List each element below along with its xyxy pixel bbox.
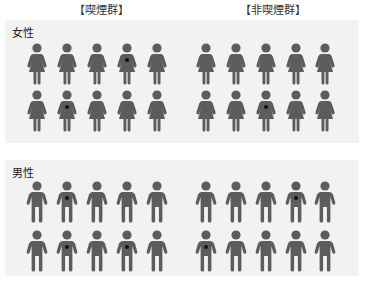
male-non-smoking-figure — [225, 181, 247, 223]
female-person-icon — [116, 90, 138, 132]
female-smoking-figure — [26, 90, 48, 132]
male-non-smoking-figure — [314, 181, 336, 223]
female-person-icon — [26, 43, 48, 85]
female-non-smoking-figure — [314, 90, 336, 132]
male-smoking-figure — [146, 181, 168, 223]
section-label-male: 男性 — [12, 164, 34, 180]
female-non-smoking-figure — [225, 90, 247, 132]
male-person-icon — [314, 181, 336, 223]
female-smoking-figure-marked — [56, 90, 78, 132]
male-person-icon — [195, 181, 217, 223]
female-person-icon — [26, 90, 48, 132]
male-person-icon — [116, 230, 138, 272]
male-person-icon — [146, 181, 168, 223]
male-smoking-figure-marked — [56, 230, 78, 272]
male-non-smoking-figure — [255, 230, 277, 272]
female-person-icon — [146, 43, 168, 85]
male-smoking-figure-marked — [116, 230, 138, 272]
male-non-smoking-figure — [255, 181, 277, 223]
male-person-icon — [56, 230, 78, 272]
female-non-smoking-figure — [285, 43, 307, 85]
female-smoking-figure — [86, 90, 108, 132]
female-non-smoking-figure — [225, 43, 247, 85]
header-smoking-group: 【喫煙群】 — [74, 1, 129, 17]
male-non-smoking-figure-marked — [285, 181, 307, 223]
section-female: 女性 — [5, 20, 359, 143]
male-person-icon — [314, 230, 336, 272]
male-person-icon — [86, 230, 108, 272]
male-smoking-figure — [26, 181, 48, 223]
female-person-icon — [255, 90, 277, 132]
female-person-icon — [285, 90, 307, 132]
male-person-icon — [116, 181, 138, 223]
male-smoking-figure — [116, 181, 138, 223]
female-smoking-figure — [56, 43, 78, 85]
female-smoking-figure — [26, 43, 48, 85]
female-person-icon — [56, 90, 78, 132]
female-person-icon — [285, 43, 307, 85]
male-person-icon — [146, 230, 168, 272]
male-person-icon — [26, 181, 48, 223]
female-non-smoking-figure — [195, 90, 217, 132]
female-person-icon — [195, 90, 217, 132]
female-non-smoking-figure-marked — [255, 90, 277, 132]
male-person-icon — [86, 181, 108, 223]
male-non-smoking-figure-marked — [195, 230, 217, 272]
female-smoking-figure — [86, 43, 108, 85]
female-non-smoking-figure — [255, 43, 277, 85]
male-person-icon — [285, 230, 307, 272]
female-person-icon — [195, 43, 217, 85]
male-non-smoking-figure — [195, 181, 217, 223]
male-person-icon — [195, 230, 217, 272]
section-label-female: 女性 — [12, 24, 34, 40]
section-male: 男性 — [5, 160, 359, 276]
female-person-icon — [225, 90, 247, 132]
female-person-icon — [86, 90, 108, 132]
female-person-icon — [314, 90, 336, 132]
male-person-icon — [26, 230, 48, 272]
female-person-icon — [56, 43, 78, 85]
male-non-smoking-figure — [225, 230, 247, 272]
male-smoking-figure — [86, 181, 108, 223]
female-person-icon — [225, 43, 247, 85]
female-person-icon — [314, 43, 336, 85]
female-non-smoking-figure — [314, 43, 336, 85]
female-non-smoking-figure — [285, 90, 307, 132]
female-smoking-figure-marked — [116, 43, 138, 85]
male-smoking-figure — [86, 230, 108, 272]
male-smoking-figure — [26, 230, 48, 272]
male-person-icon — [56, 181, 78, 223]
male-non-smoking-figure — [314, 230, 336, 272]
female-person-icon — [146, 90, 168, 132]
header-non-smoking-group: 【非喫煙群】 — [240, 1, 306, 17]
male-person-icon — [255, 230, 277, 272]
female-person-icon — [116, 43, 138, 85]
male-person-icon — [225, 230, 247, 272]
female-non-smoking-figure — [195, 43, 217, 85]
female-person-icon — [86, 43, 108, 85]
male-person-icon — [225, 181, 247, 223]
female-smoking-figure — [146, 90, 168, 132]
female-smoking-figure — [116, 90, 138, 132]
male-person-icon — [255, 181, 277, 223]
female-person-icon — [255, 43, 277, 85]
male-smoking-figure-marked — [56, 181, 78, 223]
male-non-smoking-figure — [285, 230, 307, 272]
male-person-icon — [285, 181, 307, 223]
male-smoking-figure — [146, 230, 168, 272]
female-smoking-figure — [146, 43, 168, 85]
